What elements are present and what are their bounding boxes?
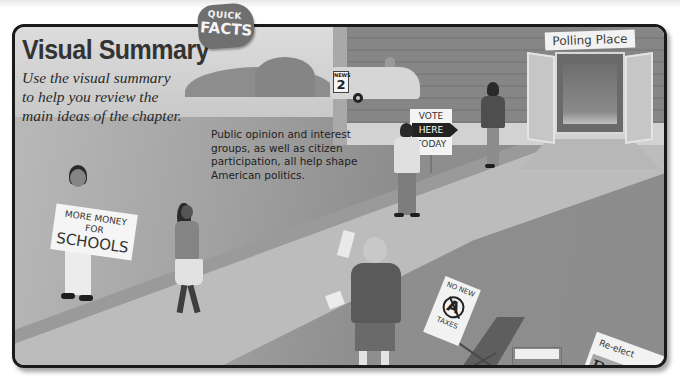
box-papers	[515, 349, 559, 359]
news-logo: NEWS 2	[333, 71, 349, 93]
news-logo-number: 2	[336, 77, 345, 92]
satellite-dish	[385, 57, 395, 67]
doorway	[555, 52, 625, 134]
vote-sign-post	[430, 155, 432, 173]
summary-text: Public opinion and interest groups, as w…	[211, 128, 361, 182]
door-right	[625, 52, 653, 144]
background-trees	[255, 57, 315, 97]
door-left	[527, 52, 555, 144]
polling-place-sign: Polling Place	[545, 29, 636, 50]
poll-workers	[563, 64, 617, 124]
quick-facts-badge: QUICK FACTS	[197, 2, 256, 50]
pena-sign-name: Peña	[585, 354, 643, 368]
page-top-fade	[0, 0, 680, 8]
vote-sign-line1: VOTE	[419, 111, 443, 121]
page-title: Visual Summary	[22, 34, 209, 66]
vote-sign-line3: TODAY	[416, 139, 446, 149]
badge-line2: FACTS	[198, 19, 255, 39]
intro-text: Use the visual summary to help you revie…	[22, 68, 182, 125]
van-wheel	[353, 93, 363, 103]
vote-sign-arrow: HERE	[412, 123, 450, 137]
